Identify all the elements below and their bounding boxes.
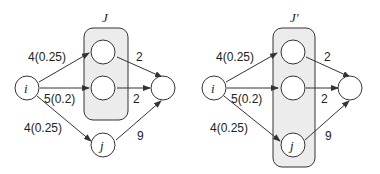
edge-label-i-top: 4(0.25)	[28, 50, 66, 64]
edge-label-i-top: 4(0.25)	[216, 50, 254, 64]
edge-label-mid-sink: 2	[321, 92, 328, 106]
left-graph: J i j 4(0.25) 5(0.2) 4(0.25) 2 2 9	[15, 10, 175, 157]
edge-label-i-j: 4(0.25)	[210, 121, 248, 135]
node-sink	[338, 76, 362, 100]
edge-label-mid-sink: 2	[133, 92, 140, 106]
edge-label-top-sink: 2	[324, 50, 331, 64]
edge-label-i-j: 4(0.25)	[24, 121, 62, 135]
edge-label-top-sink: 2	[136, 50, 143, 64]
edge-label-i-mid: 5(0.2)	[44, 92, 75, 106]
node-mid	[91, 76, 115, 100]
node-i-label: i	[211, 81, 215, 96]
edge-label-j-sink: 9	[325, 129, 332, 143]
group-label-J-prime: J′	[290, 10, 299, 25]
node-top	[91, 40, 115, 64]
node-top	[281, 40, 305, 64]
edge-label-i-mid: 5(0.2)	[231, 92, 262, 106]
node-sink	[151, 76, 175, 100]
node-i-label: i	[24, 81, 28, 96]
group-label-J: J	[102, 10, 109, 25]
diagram-canvas: J i j 4(0.25) 5(0.2) 4(0.25) 2 2 9 J′ i	[0, 0, 380, 174]
right-graph: J′ i j 4(0.25) 5(0.2) 4(0.25) 2 2 9	[202, 10, 362, 167]
node-mid	[281, 76, 305, 100]
edge-label-j-sink: 9	[137, 129, 144, 143]
